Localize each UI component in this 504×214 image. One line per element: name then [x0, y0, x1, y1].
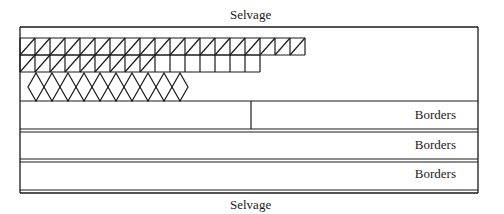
triangle-diagonal [95, 38, 110, 55]
triangle-diagonal [290, 38, 305, 55]
triangle-diagonal [20, 55, 35, 72]
triangle-diagonal [65, 55, 80, 72]
triangle-diagonal [215, 38, 230, 55]
triangle-diagonal [95, 55, 110, 72]
triangle-diagonal [50, 38, 65, 55]
triangle-diagonal [230, 38, 245, 55]
triangle-diagonal [65, 38, 80, 55]
triangle-diagonal [140, 55, 155, 72]
triangle-diagonal [200, 38, 215, 55]
border-label-3: Borders [415, 167, 456, 181]
diamond-shape [76, 73, 92, 101]
triangle-diagonal [155, 38, 170, 55]
triangle-row-2 [20, 55, 260, 72]
top-selvage-label: Selvage [230, 8, 271, 22]
diamond-shape [60, 73, 76, 101]
triangle-diagonal [35, 38, 50, 55]
triangle-diagonal [110, 55, 125, 72]
triangle-diagonal [125, 55, 140, 72]
diamond-shape [108, 73, 124, 101]
triangle-diagonal [185, 38, 200, 55]
border-label-1: Borders [415, 108, 456, 122]
triangle-row-1 [20, 38, 305, 55]
diamond-shape [28, 73, 44, 101]
triangle-diagonal [80, 55, 95, 72]
triangle-diagonal [110, 38, 125, 55]
triangle-diagonal [125, 38, 140, 55]
triangle-diagonal [170, 38, 185, 55]
bottom-selvage-label: Selvage [230, 198, 271, 212]
triangle-diagonal [260, 38, 275, 55]
triangle-diagonal [80, 38, 95, 55]
triangle-diagonal [140, 38, 155, 55]
triangle-diagonal [245, 38, 260, 55]
border-rows [20, 101, 478, 190]
triangle-diagonal [50, 55, 65, 72]
diamond-shape [124, 73, 140, 101]
triangle-diagonal [20, 38, 35, 55]
outer-frame [20, 27, 478, 193]
diamond-shape [44, 73, 60, 101]
diamond-row [28, 73, 188, 101]
border-label-2: Borders [415, 138, 456, 152]
triangle-diagonal [35, 55, 50, 72]
diamond-shape [140, 73, 156, 101]
diamond-shape [156, 73, 172, 101]
diamond-shape [172, 73, 188, 101]
diamond-shape [92, 73, 108, 101]
triangle-diagonal [275, 38, 290, 55]
